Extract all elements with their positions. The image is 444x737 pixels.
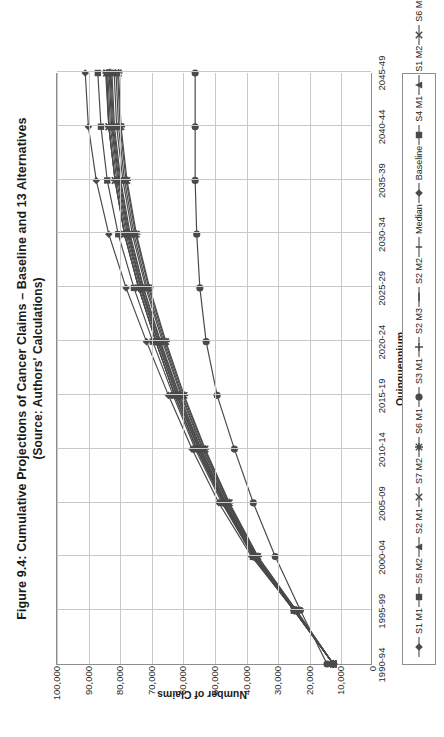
legend-swatch-diamond-icon: [412, 182, 426, 204]
series-marker-asterisk: [225, 499, 233, 507]
series-s1-m2: [112, 69, 336, 667]
legend-swatch-dash-icon: [412, 286, 426, 308]
y-axis-tick-label: 100,000: [51, 666, 62, 726]
figure-container: Figure 9.4: Cumulative Projections of Ca…: [0, 0, 444, 737]
figure-title: Figure 9.4: Cumulative Projections of Ca…: [14, 0, 46, 737]
gridline-vertical: [57, 286, 371, 287]
series-marker-asterisk: [162, 338, 170, 346]
legend-swatch-asterisk-icon: [412, 436, 426, 458]
figure-title-line-1: Figure 9.4: Cumulative Projections of Ca…: [14, 0, 30, 737]
x-axis-tick-label: 2015-19: [376, 378, 387, 413]
series-layer: [57, 73, 371, 664]
x-axis-tick-label: 2010-14: [376, 432, 387, 467]
series-marker-circle: [297, 607, 304, 614]
plot-area: [56, 73, 372, 665]
series-marker-diamond: [415, 190, 423, 198]
x-axis-tick-label: 2040-44: [376, 109, 387, 144]
x-axis-tick-label: 2035-39: [376, 163, 387, 198]
gridline-vertical: [57, 555, 371, 556]
series-s2-m3: [105, 69, 337, 668]
x-axis-tick-label: 1995-99: [376, 594, 387, 629]
series-s7-m2: [103, 70, 336, 667]
legend-swatch-circle-icon: [412, 386, 426, 408]
series-marker-diamond: [415, 643, 423, 651]
gridline-vertical: [57, 179, 371, 180]
series-s3-m1: [104, 69, 337, 667]
legend-item-label: S4 M1: [414, 96, 424, 122]
legend-swatch-plus-icon: [412, 336, 426, 358]
figure-title-line-2: (Source: Authors' Calculations): [30, 0, 46, 737]
legend-item[interactable]: S1 M1: [412, 608, 426, 658]
legend-item[interactable]: S7 M2: [412, 458, 426, 508]
x-axis-tick-label: 2025-29: [376, 271, 387, 306]
rotated-page-canvas: Figure 9.4: Cumulative Projections of Ca…: [0, 0, 444, 737]
legend-swatch-cross-x-icon: [412, 486, 426, 508]
legend-swatch-cross-x-icon: [412, 24, 426, 46]
legend-item-label: S7 M2: [414, 458, 424, 484]
x-axis-tick-label: 2020-24: [376, 325, 387, 360]
legend-item[interactable]: S6 M1: [412, 408, 426, 458]
legend-item[interactable]: S2 M3: [412, 308, 426, 358]
legend-item-label: Baseline: [414, 146, 424, 181]
legend-item-label: S2 M1: [414, 508, 424, 534]
series-s7-m1: [115, 69, 338, 668]
legend-item-label: S1 M2: [414, 46, 424, 72]
series-marker-square: [416, 594, 422, 600]
y-axis-tick-label: 20,000: [303, 666, 314, 726]
legend-item[interactable]: S2 M2: [412, 258, 426, 308]
series-marker-circle: [415, 393, 422, 400]
legend-swatch-diamond-icon: [412, 636, 426, 658]
series-marker-asterisk: [415, 443, 423, 451]
legend-item-label: S1 M1: [414, 608, 424, 634]
series-marker-square: [416, 132, 422, 138]
legend-item[interactable]: S1 M2: [412, 46, 426, 96]
gridline-vertical: [57, 232, 371, 233]
legend-item[interactable]: Baseline: [412, 146, 426, 205]
series-baseline: [108, 69, 337, 668]
gridline-horizontal: [341, 73, 342, 664]
y-axis-tick-label: 10,000: [335, 666, 346, 726]
series-s4-m1: [111, 70, 337, 667]
x-axis-tick-label: 2030-34: [376, 217, 387, 252]
gridline-horizontal: [247, 73, 248, 664]
legend-item-label: Median: [414, 204, 424, 234]
series-marker-asterisk: [254, 553, 262, 561]
legend-item[interactable]: S5 M2: [412, 558, 426, 608]
series-marker-asterisk: [201, 445, 209, 453]
gridline-horizontal: [120, 73, 121, 664]
legend-item[interactable]: S3 M1: [412, 358, 426, 408]
legend-item-label: S3 M1: [414, 358, 424, 384]
legend-item-label: S6 M1: [414, 408, 424, 434]
gridline-horizontal: [278, 73, 279, 664]
series-marker-circle: [231, 445, 238, 452]
gridline-horizontal: [57, 73, 58, 664]
legend-item[interactable]: S2 M1: [412, 508, 426, 558]
gridline-horizontal: [183, 73, 184, 664]
gridline-vertical: [57, 609, 371, 610]
legend-swatch-triangle-icon: [412, 536, 426, 558]
gridline-horizontal: [215, 73, 216, 664]
gridline-horizontal: [152, 73, 153, 664]
legend-swatch-line-icon: [412, 236, 426, 258]
x-axis-tick-label: 1990-94: [376, 648, 387, 683]
legend-item[interactable]: Median: [412, 204, 426, 258]
y-axis-tick-label: 90,000: [82, 666, 93, 726]
x-axis-tick-label: 2005-09: [376, 486, 387, 521]
legend-item[interactable]: S4 M1: [412, 96, 426, 146]
gridline-horizontal: [310, 73, 311, 664]
legend-item[interactable]: S6 M2: [412, 0, 426, 46]
legend-item-label: S6 M2: [414, 0, 424, 22]
gridline-horizontal: [89, 73, 90, 664]
x-axis-tick-label: 2000-04: [376, 540, 387, 575]
series-s2-m2: [110, 69, 333, 668]
series-marker-asterisk: [132, 230, 140, 238]
series-s6-m1: [103, 69, 337, 668]
chart-legend: S1 M1S5 M2S2 M1S7 M2S6 M1S3 M1S2 M3S2 M2…: [402, 73, 436, 665]
legend-swatch-square-icon: [412, 124, 426, 146]
y-axis-title: Number of Claims: [112, 689, 292, 701]
legend-swatch-square-icon: [412, 586, 426, 608]
gridline-vertical: [57, 502, 371, 503]
legend-item-label: S5 M2: [414, 558, 424, 584]
series-marker-circle: [250, 499, 257, 506]
gridline-vertical: [57, 448, 371, 449]
